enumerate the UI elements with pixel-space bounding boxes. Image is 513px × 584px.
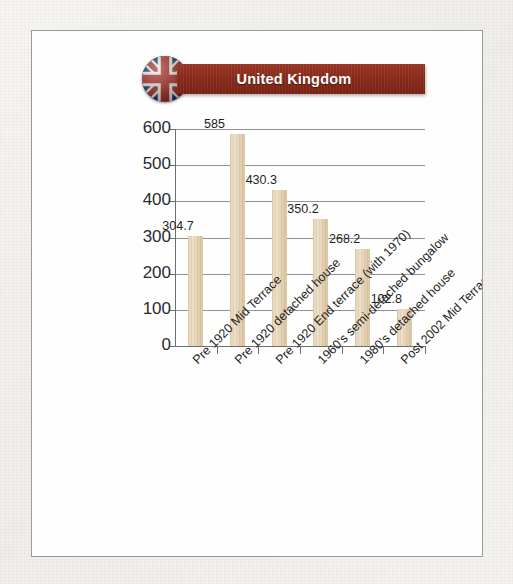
gridline xyxy=(175,165,425,166)
value-label: 430.3 xyxy=(246,173,277,187)
y-axis-label: 0 xyxy=(111,335,171,355)
y-axis-label: 400 xyxy=(111,190,171,210)
gridline xyxy=(175,274,425,275)
bar xyxy=(188,236,203,346)
country-title: United Kingdom xyxy=(177,64,411,94)
gridline xyxy=(175,238,425,239)
value-label: 268.2 xyxy=(329,232,360,246)
chart-card: United Kingdom 6005004003002001000 304.7… xyxy=(31,30,483,557)
y-axis-label: 100 xyxy=(111,299,171,319)
gridline xyxy=(175,310,425,311)
y-axis-label: 200 xyxy=(111,263,171,283)
bar-chart-plot: 6005004003002001000 304.7585430.3350.226… xyxy=(175,129,425,346)
value-label: 585 xyxy=(204,117,225,131)
y-axis-label: 600 xyxy=(111,118,171,138)
y-axis-label: 500 xyxy=(111,154,171,174)
value-label: 304.7 xyxy=(162,219,193,233)
chart-header: United Kingdom xyxy=(142,56,426,104)
value-label: 350.2 xyxy=(287,202,318,216)
country-banner: United Kingdom xyxy=(177,64,425,94)
